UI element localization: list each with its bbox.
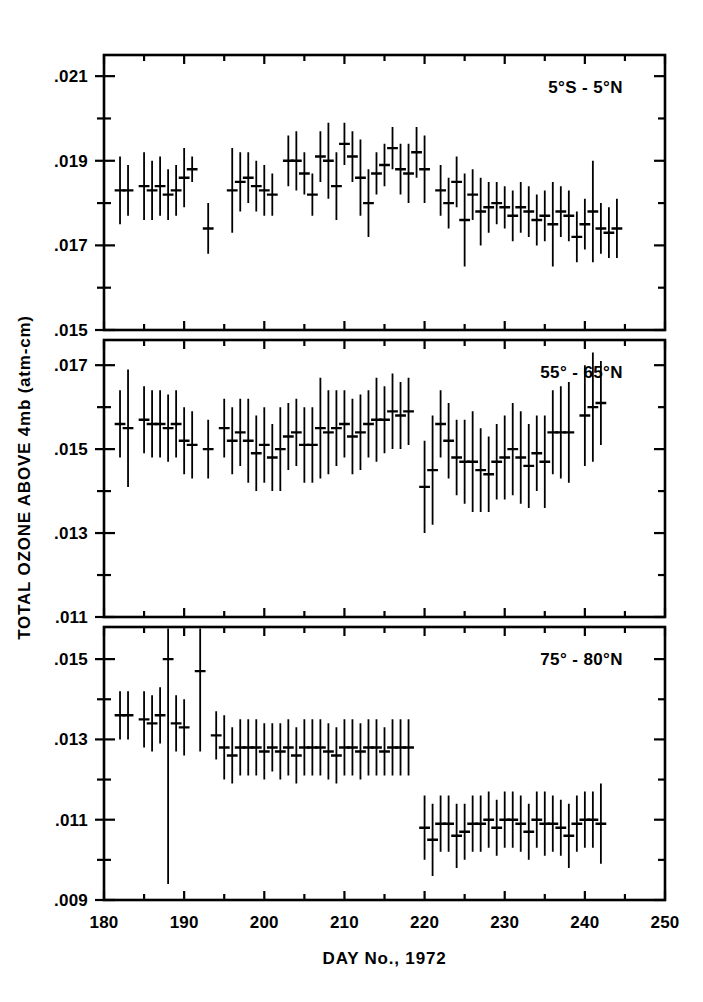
data-point <box>163 434 174 884</box>
y-tick-label: .015 <box>54 321 88 340</box>
data-point <box>123 691 134 739</box>
x-tick-label: 220 <box>410 913 439 932</box>
data-point <box>235 399 246 466</box>
data-point <box>283 719 294 775</box>
data-point <box>563 190 574 241</box>
y-tick-label: .021 <box>54 67 88 86</box>
data-point <box>339 123 350 165</box>
data-point <box>491 424 502 500</box>
data-point <box>299 152 310 194</box>
data-point <box>115 390 126 457</box>
data-point <box>475 178 486 246</box>
data-point <box>363 390 374 457</box>
data-point <box>347 131 358 182</box>
data-point <box>171 165 182 216</box>
data-point <box>219 715 230 779</box>
data-point <box>539 190 550 241</box>
ozone-timeseries-figure: .015.017.019.0215°S - 5°N.011.013.015.01… <box>0 0 703 1002</box>
data-point <box>387 374 398 450</box>
data-point <box>571 212 582 263</box>
data-point <box>595 784 606 864</box>
data-point <box>139 691 150 747</box>
data-point <box>523 424 534 508</box>
data-point <box>587 161 598 263</box>
data-point <box>227 148 238 233</box>
data-point <box>379 144 390 186</box>
data-point <box>563 382 574 483</box>
data-point <box>291 131 302 190</box>
data-point <box>331 152 342 220</box>
data-point <box>515 796 526 852</box>
data-point <box>243 152 254 203</box>
x-tick-label: 250 <box>651 913 680 932</box>
x-tick-label: 230 <box>490 913 519 932</box>
data-point <box>555 186 566 237</box>
panels-group: .015.017.019.0215°S - 5°N.011.013.015.01… <box>54 55 665 910</box>
data-point <box>211 711 222 759</box>
data-point <box>515 182 526 233</box>
y-axis-title: TOTAL OZONE ABOVE 4mb (atm-cm) <box>15 315 34 640</box>
data-point <box>123 369 134 487</box>
axis-titles-group: 180190200210220230240250DAY No., 1972TOT… <box>15 315 679 968</box>
data-point <box>331 390 342 466</box>
panel-region-label: 55° - 65°N <box>540 363 623 382</box>
x-tick-label: 200 <box>250 913 279 932</box>
data-point <box>451 420 462 496</box>
data-point <box>171 695 182 751</box>
data-point <box>323 390 334 474</box>
data-point <box>347 399 358 475</box>
data-point <box>371 152 382 194</box>
data-point <box>387 127 398 169</box>
data-point <box>187 411 198 478</box>
data-point <box>443 796 454 852</box>
panel-midlatitude: .011.013.015.01755° - 65°N <box>54 340 665 627</box>
data-point <box>483 182 494 233</box>
data-point <box>579 199 590 250</box>
data-point <box>563 804 574 868</box>
data-point <box>251 416 262 492</box>
data-point <box>395 144 406 195</box>
data-point <box>147 695 158 751</box>
data-point <box>291 727 302 783</box>
data-point <box>315 131 326 182</box>
data-point <box>227 727 238 783</box>
data-point <box>139 386 150 453</box>
data-point <box>195 591 206 752</box>
data-point <box>251 719 262 775</box>
data-point <box>203 203 214 254</box>
panel-equatorial: .015.017.019.0215°S - 5°N <box>54 55 665 340</box>
data-point <box>307 173 318 215</box>
panel-polar: .009.011.013.01575° - 80°N <box>54 434 665 910</box>
data-point <box>467 411 478 512</box>
data-point <box>451 157 462 208</box>
x-tick-label: 180 <box>90 913 119 932</box>
data-point <box>491 182 502 224</box>
panel-region-label: 75° - 80°N <box>540 650 623 669</box>
data-point <box>283 403 294 470</box>
data-point <box>315 378 326 479</box>
x-tick-label: 240 <box>570 913 599 932</box>
data-point <box>203 420 214 479</box>
data-point <box>483 437 494 513</box>
chart-canvas: .015.017.019.0215°S - 5°N.011.013.015.01… <box>0 0 703 1002</box>
data-point <box>155 390 166 457</box>
data-point <box>267 173 278 215</box>
data-point <box>523 804 534 860</box>
data-point <box>323 723 334 779</box>
data-point <box>483 792 494 848</box>
data-point <box>251 161 262 212</box>
data-point <box>355 140 366 216</box>
panel-region-label: 5°S - 5°N <box>548 78 623 97</box>
data-point <box>475 796 486 852</box>
data-point <box>539 416 550 508</box>
data-point <box>243 399 254 483</box>
data-point <box>179 407 190 474</box>
data-point <box>379 386 390 453</box>
data-point <box>259 723 270 779</box>
data-point <box>395 382 406 449</box>
data-point <box>604 207 615 258</box>
x-axis-title: DAY No., 1972 <box>323 949 447 968</box>
data-point <box>435 390 446 457</box>
data-point <box>531 792 542 848</box>
data-point <box>451 804 462 868</box>
